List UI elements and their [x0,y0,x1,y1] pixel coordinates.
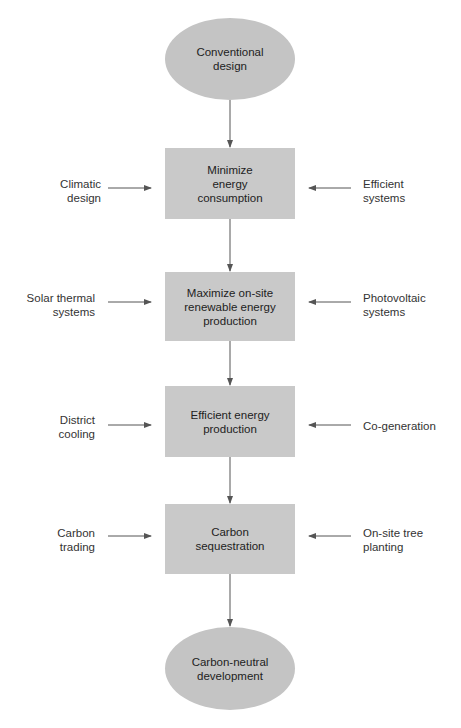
input-solar-thermal: Solar thermal systems [27,291,95,319]
step-maximize-renewable: Maximize on-site renewable energy produc… [165,272,295,341]
end-node: Carbon-neutral development [165,627,295,710]
step-label: Efficient energy production [190,408,269,436]
input-climatic-design: Climatic design [60,177,101,205]
step-label: Maximize on-site renewable energy produc… [184,286,275,328]
input-co-generation: Co-generation [363,419,436,433]
step-carbon-sequestration: Carbon sequestration [165,504,295,574]
step-minimize-consumption: Minimize energy consumption [165,148,295,219]
step-label: Minimize energy consumption [197,163,262,205]
start-node: Conventional design [165,18,295,100]
input-photovoltaic: Photovoltaic systems [363,291,426,319]
step-label: Carbon sequestration [195,525,264,553]
input-district-cooling: District cooling [59,413,95,441]
end-label: Carbon-neutral development [192,655,269,683]
step-efficient-production: Efficient energy production [165,386,295,457]
input-efficient-systems: Efficient systems [363,177,405,205]
connector-arrows [0,0,461,728]
start-label: Conventional design [196,45,263,73]
input-carbon-trading: Carbon trading [57,526,95,554]
input-tree-planting: On-site tree planting [363,526,423,554]
